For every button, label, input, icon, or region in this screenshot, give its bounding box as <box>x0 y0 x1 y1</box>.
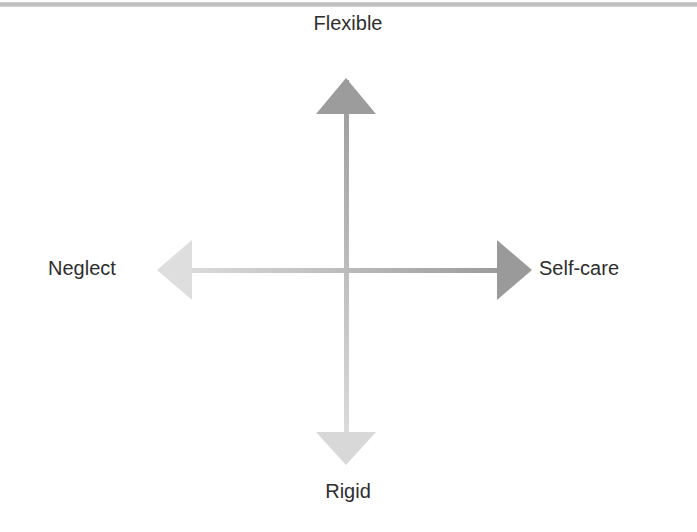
axis-label-neglect: Neglect <box>48 257 116 280</box>
horizontal-axis-line <box>185 268 505 273</box>
axis-label-self-care: Self-care <box>539 257 619 280</box>
axis-label-rigid: Rigid <box>288 480 408 503</box>
vertical-axis-line <box>344 80 349 440</box>
arrow-right-icon <box>497 240 532 300</box>
arrow-up-icon <box>316 78 376 114</box>
axis-label-flexible: Flexible <box>288 12 408 35</box>
arrow-left-icon <box>157 240 192 300</box>
arrow-down-icon <box>316 432 376 465</box>
